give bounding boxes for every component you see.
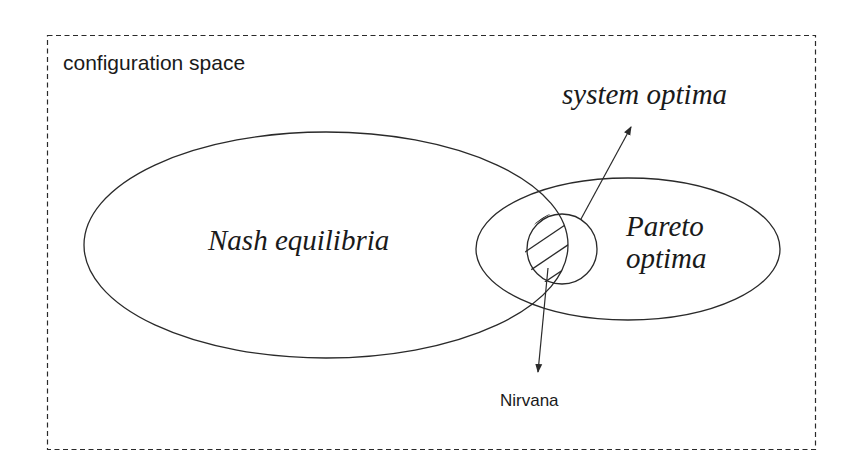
diagram-canvas: configuration space Nash equilibria Pare… (0, 0, 859, 475)
pareto-optima-label-line2: optima (626, 242, 707, 274)
system-optima-label: system optima (562, 78, 727, 110)
nirvana-label: Nirvana (500, 391, 559, 410)
frame-label: configuration space (63, 51, 245, 74)
nash-equilibria-label: Nash equilibria (207, 224, 389, 256)
pareto-optima-label-line1: Pareto (625, 210, 704, 242)
system-optima-arrow (581, 127, 631, 219)
nirvana-arrow (538, 268, 548, 372)
